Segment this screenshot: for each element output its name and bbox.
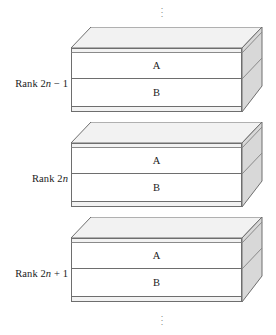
face-label-b: B: [72, 277, 241, 288]
slab-face-a: A: [71, 53, 242, 79]
slab-bottom-edge-strip: [71, 107, 242, 112]
vertical-ellipsis-bottom-icon: · · ·: [155, 314, 169, 327]
slab-face-b: B: [71, 174, 242, 202]
slab-rank-2n: Rank 2n A B: [0, 122, 276, 222]
rank-label-prefix: Rank 2: [15, 268, 46, 279]
slab-face-a: A: [71, 148, 242, 174]
slab-top-face: [71, 27, 242, 48]
face-label-b: B: [72, 87, 241, 98]
ellipsis-dot: ·: [155, 322, 169, 326]
slab-right-side-face: [242, 217, 268, 307]
vertical-ellipsis-top-icon: · · ·: [155, 6, 169, 19]
slab-face-a: A: [71, 243, 242, 269]
rank-label-prefix: Rank 2: [15, 78, 46, 89]
rank-label-variable: n: [63, 173, 68, 184]
slab-right-side-face: [242, 122, 268, 212]
ellipsis-dot: ·: [155, 14, 169, 18]
slab-right-side-face: [242, 27, 268, 117]
slab-bottom-edge-strip: [71, 202, 242, 207]
rank-slab-diagram: · · · Rank 2n − 1 A B: [0, 0, 276, 335]
slab-top-face: [71, 122, 242, 143]
face-label-a: A: [72, 250, 241, 261]
slab-top-face: [71, 217, 242, 238]
rank-label-2n: Rank 2n: [32, 173, 68, 184]
face-label-a: A: [72, 155, 241, 166]
face-label-a: A: [72, 60, 241, 71]
slab-bottom-edge-strip: [71, 297, 242, 302]
rank-label-prefix: Rank 2: [32, 173, 63, 184]
slab-rank-2n-plus-1: Rank 2n + 1 A B: [0, 217, 276, 317]
face-label-b: B: [72, 182, 241, 193]
rank-label-suffix: + 1: [51, 268, 68, 279]
rank-label-2n-plus-1: Rank 2n + 1: [15, 268, 68, 279]
rank-label-2n-minus-1: Rank 2n − 1: [15, 78, 68, 89]
slab-rank-2n-minus-1: Rank 2n − 1 A B: [0, 27, 276, 127]
slab-face-b: B: [71, 269, 242, 297]
rank-label-suffix: − 1: [51, 78, 68, 89]
slab-face-b: B: [71, 79, 242, 107]
